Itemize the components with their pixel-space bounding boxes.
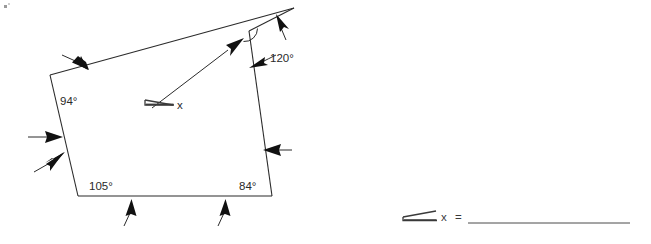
edge-arrow-bottom-right xyxy=(218,199,231,226)
scan-speck-mark xyxy=(4,5,7,8)
answer-variable: x xyxy=(441,211,447,223)
pentagon-interior xyxy=(50,8,294,196)
angle-label-bottom-left: 105° xyxy=(89,180,113,192)
angle-label-bottom-right: 84° xyxy=(239,180,256,192)
unknown-angle-variable: x xyxy=(177,99,183,111)
edge-arrow-right xyxy=(263,144,292,156)
answer-angle-icon xyxy=(403,211,437,221)
edge-arrow-bottom-left xyxy=(124,199,137,226)
geometry-figure: 94° 105° 84° 120° x x = xyxy=(0,0,651,244)
angle-label-top-left: 94° xyxy=(60,95,77,107)
scan-speck-mark-secondary xyxy=(8,3,10,5)
edge-arrow-left-upper xyxy=(28,131,63,143)
answer-equals-sign: = xyxy=(455,211,462,223)
edge-arrow-left-lower xyxy=(34,152,65,172)
edge-arrow-apex-return xyxy=(276,14,289,40)
angle-label-apex: 120° xyxy=(270,52,294,64)
worksheet-canvas: 94° 105° 84° 120° x x = Angle Measure Wo… xyxy=(0,0,651,244)
